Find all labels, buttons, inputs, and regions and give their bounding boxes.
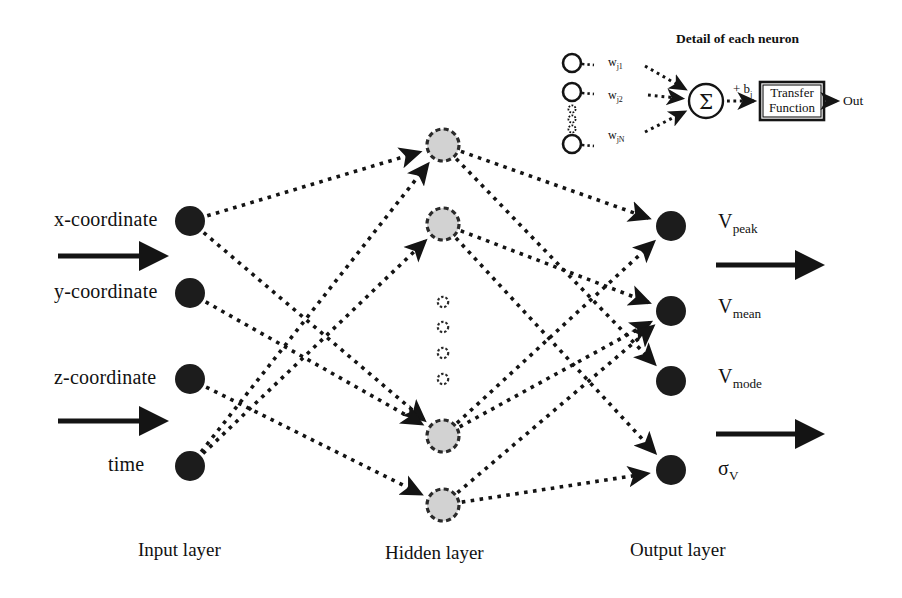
hidden-ellipsis-dot — [438, 322, 448, 332]
input-label-y-coordinate: y-coordinate — [54, 281, 157, 301]
output-node — [656, 366, 686, 396]
caption-hidden-layer: Hidden layer — [385, 543, 484, 562]
inset-weight-arrow — [645, 66, 685, 89]
input-node — [175, 364, 205, 394]
hidden-node — [427, 129, 459, 161]
inset-ellipsis-dot — [568, 105, 575, 112]
connection-edge — [461, 231, 649, 303]
figure-canvas: Σ x-coordinate y-coordinate z-coordinate… — [0, 0, 902, 598]
inset-input-circle — [563, 135, 581, 153]
output-label-v-mode-sub: mode — [733, 376, 762, 391]
connections-input-to-hidden — [201, 152, 427, 494]
inset-weight-stub — [582, 93, 594, 94]
hidden-ellipsis-dot — [438, 297, 448, 307]
hidden-node — [427, 420, 459, 452]
input-label-time: time — [108, 454, 144, 474]
inset-output-label: Out — [843, 94, 863, 108]
output-layer-nodes — [656, 211, 686, 485]
transfer-function-line1: Transfer — [770, 85, 814, 100]
output-label-v-mode: Vmode — [718, 366, 762, 390]
flow-direction-arrows — [58, 256, 818, 434]
weight-label-wj2-base: w — [608, 88, 617, 102]
weight-label-wjN: wjN — [608, 129, 625, 144]
caption-input-layer: Input layer — [138, 540, 221, 559]
connection-edge — [204, 233, 424, 420]
connection-edge — [462, 474, 647, 502]
output-label-v-mean-sub: mean — [733, 306, 762, 321]
transfer-function-line2: Function — [769, 100, 815, 115]
output-node — [656, 296, 686, 326]
bias-label: + bj — [733, 82, 752, 98]
hidden-node — [427, 208, 459, 240]
inset-weight-stub — [582, 64, 594, 65]
inset-title: Detail of each neuron — [676, 32, 799, 46]
inset-weight-arrow — [645, 112, 685, 132]
weight-label-wj2: wj2 — [608, 89, 623, 104]
output-label-v-mean-base: V — [718, 295, 733, 317]
output-label-v-mean: Vmean — [718, 296, 761, 320]
hidden-node — [427, 489, 459, 521]
input-label-z-coordinate: z-coordinate — [54, 367, 156, 387]
inset-ellipsis-dot — [568, 115, 575, 122]
connection-edge — [206, 387, 421, 494]
output-node — [656, 211, 686, 241]
caption-output-layer: Output layer — [630, 540, 726, 559]
weight-label-wjN-sub: jN — [617, 135, 625, 144]
weight-label-wj1-base: w — [608, 55, 617, 69]
connection-edge — [456, 159, 654, 364]
output-label-sigma-v: σV — [718, 458, 739, 482]
connection-edge — [206, 302, 422, 424]
output-label-sigma-v-sub: V — [729, 468, 739, 483]
output-label-v-peak-base: V — [718, 210, 733, 232]
hidden-layer-ellipsis — [438, 297, 448, 384]
weight-label-wj2-sub: j2 — [617, 95, 623, 104]
bias-label-base: + b — [733, 81, 750, 96]
hidden-ellipsis-dot — [438, 374, 448, 384]
weight-label-wj1-sub: j1 — [617, 62, 623, 71]
connection-edge — [457, 242, 653, 423]
input-layer-nodes — [175, 206, 205, 481]
connection-edge — [203, 241, 425, 453]
inset-ellipsis-dot — [568, 125, 575, 132]
inset-input-circle — [563, 83, 581, 101]
inset-weight-arrow — [648, 95, 682, 99]
input-node — [175, 206, 205, 236]
bias-label-sub: j — [750, 89, 752, 99]
hidden-layer-nodes — [427, 129, 459, 521]
transfer-function-box-label: Transfer Function — [760, 86, 824, 115]
hidden-ellipsis-dot — [438, 348, 448, 358]
connection-edge — [461, 151, 648, 218]
input-node — [175, 451, 205, 481]
connection-edge — [457, 327, 652, 493]
input-label-x-coordinate: x-coordinate — [54, 209, 157, 229]
summation-sigma-glyph: Σ — [699, 90, 713, 114]
weight-label-wj1: wj1 — [608, 56, 623, 71]
input-node — [175, 278, 205, 308]
output-label-v-mode-base: V — [718, 365, 733, 387]
inset-input-circle — [563, 54, 581, 72]
weight-label-wjN-base: w — [608, 128, 617, 142]
connections-hidden-to-output — [456, 151, 655, 502]
output-label-sigma-v-base: σ — [718, 457, 729, 479]
output-node — [656, 455, 686, 485]
output-label-v-peak-sub: peak — [733, 221, 758, 236]
output-label-v-peak: Vpeak — [718, 211, 758, 235]
connection-edge — [207, 152, 419, 216]
inset-weight-stub — [582, 145, 594, 146]
